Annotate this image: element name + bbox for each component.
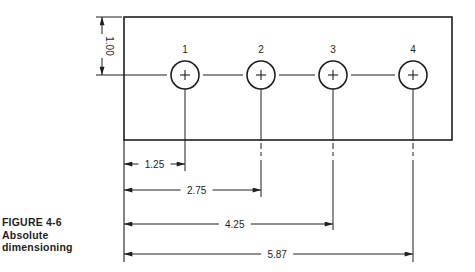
- hole-label: 3: [330, 44, 336, 55]
- dimension-5-87: 5.87: [124, 249, 413, 260]
- extension-lines: [124, 89, 413, 262]
- dimension-value: 1.25: [145, 159, 165, 170]
- dimension-value: 2.75: [187, 185, 207, 196]
- hole-label: 4: [410, 44, 416, 55]
- hole-label: 2: [258, 44, 264, 55]
- vertical-dimension-1-00: 1.00: [96, 17, 122, 75]
- dimension-4-25: 4.25: [124, 219, 333, 230]
- hole-4: 4: [399, 44, 427, 89]
- figure-title-line2: dimensioning: [2, 241, 73, 254]
- figure-title-line1: Absolute: [2, 229, 73, 242]
- hole-1: 1: [171, 44, 199, 89]
- dimension-value: 4.25: [225, 219, 245, 230]
- figure-number: FIGURE 4-6: [2, 216, 73, 229]
- figure-caption: FIGURE 4-6 Absolute dimensioning: [2, 216, 73, 254]
- hole-2: 2: [247, 44, 275, 89]
- hole-label: 1: [182, 44, 188, 55]
- part-outline: [124, 17, 452, 140]
- part-rectangle: [124, 17, 452, 140]
- dimension-value: 5.87: [267, 249, 287, 260]
- holes-group: 1234: [171, 44, 427, 89]
- dimension-1-25: 1.25: [124, 159, 185, 170]
- dimension-value-1-00: 1.00: [104, 36, 115, 56]
- hole-3: 3: [319, 44, 347, 89]
- horizontal-dimensions: 1.252.754.255.87: [124, 159, 413, 260]
- dimension-2-75: 2.75: [124, 185, 261, 196]
